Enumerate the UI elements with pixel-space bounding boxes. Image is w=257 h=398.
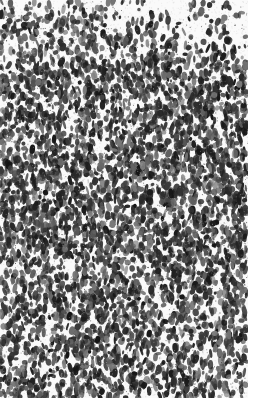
stained-cell-field [0,0,257,398]
image-right-margin [248,0,257,398]
micrograph-image [0,0,257,398]
